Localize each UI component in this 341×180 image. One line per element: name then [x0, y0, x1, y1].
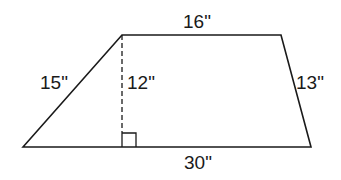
label-left-side: 15" [40, 72, 68, 93]
trapezoid-diagram: 16" 15" 12" 13" 30" [0, 0, 341, 180]
right-angle-marker [122, 133, 136, 147]
label-height: 12" [127, 72, 155, 93]
label-top-side: 16" [183, 11, 211, 32]
label-right-side: 13" [296, 72, 324, 93]
label-bottom-side: 30" [184, 152, 212, 173]
